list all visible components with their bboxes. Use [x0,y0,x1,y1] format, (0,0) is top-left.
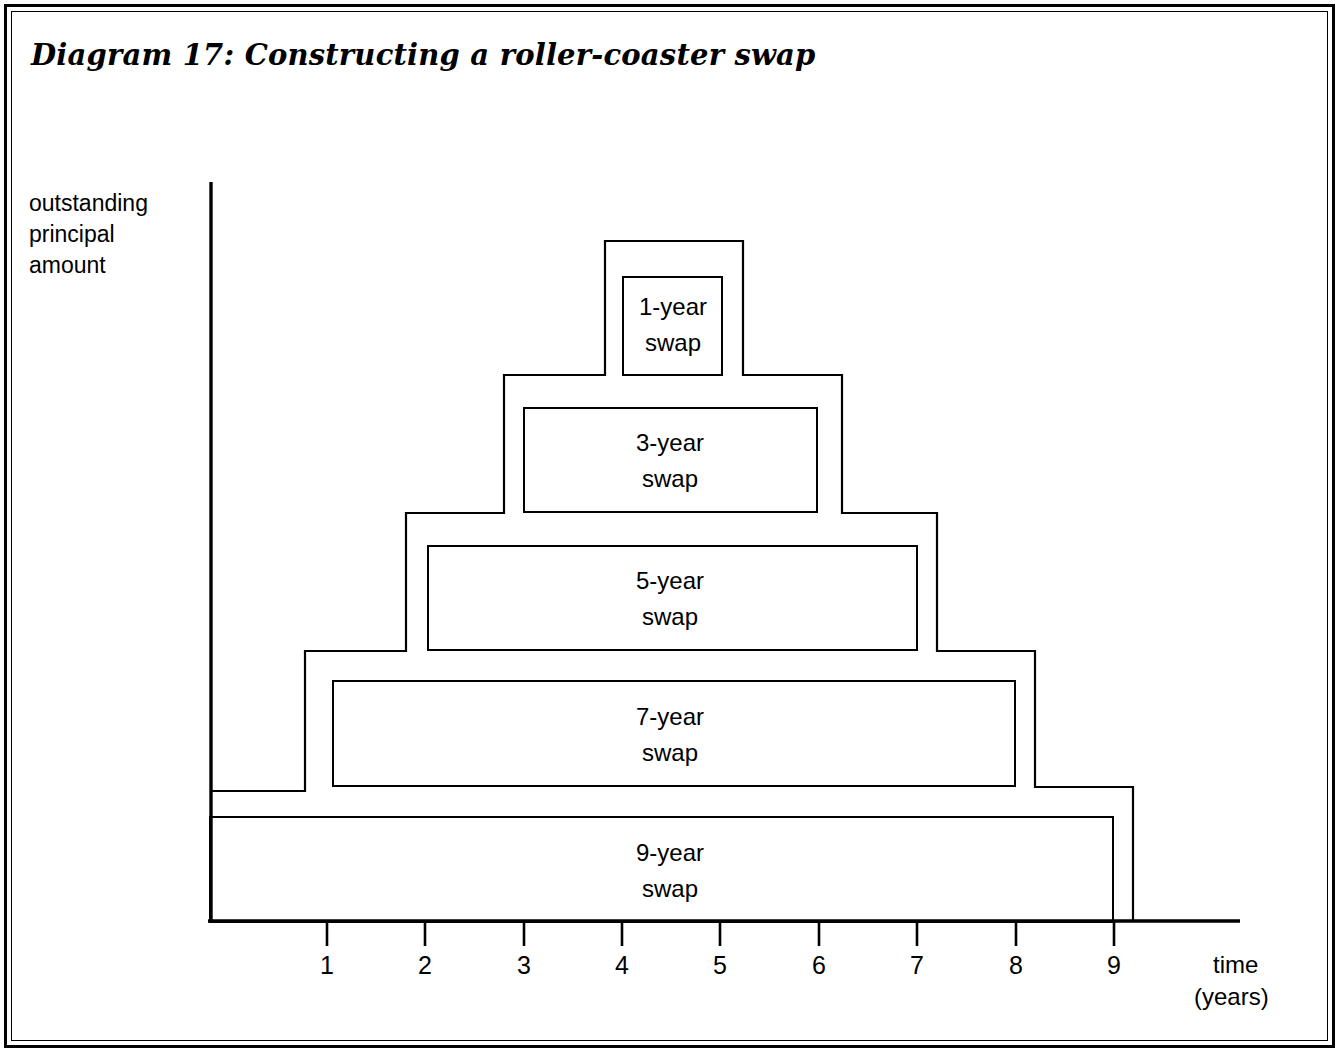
x-axis-label-line1: time [1213,951,1258,978]
swap-block-5y: 5-year swap [428,546,917,650]
swap-block-1y: 1-year swap [623,277,722,375]
x-tick-label-1: 1 [320,951,334,979]
x-tick-label-5: 5 [713,951,727,979]
swap-block-1y-rect [623,277,722,375]
diagram-page: Diagram 17: Constructing a roller-coaste… [0,0,1339,1052]
x-tick-label-9: 9 [1107,951,1121,979]
x-tick-label-8: 8 [1009,951,1023,979]
x-axis-label-line2: (years) [1194,983,1269,1010]
swap-block-3y-label-line1: 3-year [636,429,704,456]
swap-block-3y-rect [524,408,817,512]
swap-block-9y-label-line2: swap [642,875,698,902]
swap-block-9y-rect [210,817,1113,922]
x-axis-tick-labels: 1 2 3 4 5 6 7 8 9 [320,951,1121,979]
x-axis-label: time (years) [1194,951,1269,1010]
swap-block-9y-label-line1: 9-year [636,839,704,866]
swap-block-5y-rect [428,546,917,650]
swap-block-3y: 3-year swap [524,408,817,512]
x-tick-label-2: 2 [418,951,432,979]
swap-block-1y-label-line2: swap [645,329,701,356]
swap-block-5y-label-line1: 5-year [636,567,704,594]
x-tick-label-3: 3 [517,951,531,979]
roller-coaster-swap-chart: 1-year swap 3-year swap 5-year swap 7-ye… [0,0,1339,1052]
swap-block-7y-label-line2: swap [642,739,698,766]
swap-block-9y: 9-year swap [210,817,1113,922]
x-tick-label-6: 6 [812,951,826,979]
x-axis-ticks [327,921,1114,946]
swap-block-7y: 7-year swap [333,681,1015,786]
swap-block-7y-label-line1: 7-year [636,703,704,730]
swap-block-3y-label-line2: swap [642,465,698,492]
swap-block-7y-rect [333,681,1015,786]
swap-block-1y-label-line1: 1-year [639,293,707,320]
x-tick-label-7: 7 [910,951,924,979]
x-tick-label-4: 4 [615,951,629,979]
swap-block-5y-label-line2: swap [642,603,698,630]
